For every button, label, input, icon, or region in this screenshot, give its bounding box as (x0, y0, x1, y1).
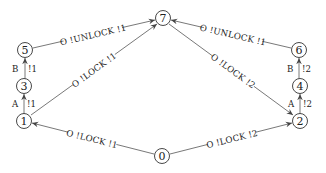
edge-0-to-2: O !LOCK !2 (170, 123, 292, 154)
edge-label-right: !2 (303, 99, 312, 109)
edge-0-to-1: O !LOCK !1 (32, 123, 154, 154)
node-label: 5 (22, 44, 29, 57)
node-label: 1 (21, 115, 28, 128)
edge-label-left: B (287, 64, 293, 74)
edge-label: O !LOCK !2 (205, 128, 258, 150)
node-label: 2 (297, 115, 304, 128)
node-3: 3 (17, 79, 32, 94)
edge-label: O !UNLOCK !1 (59, 23, 127, 48)
edge-label: O !UNLOCK !1 (199, 23, 267, 48)
edge-label-right: !1 (28, 64, 37, 74)
node-label: 7 (160, 12, 167, 25)
edge-label-right: !2 (302, 64, 311, 74)
edge-label: O !LOCK !2 (209, 51, 257, 90)
edge-label-right: !1 (27, 99, 36, 109)
edge-label-left: A (11, 99, 19, 109)
diagram-canvas: O !UNLOCK !1 O !LOCK !1 O !UNLOCK !1 O !… (0, 0, 326, 173)
node-2: 2 (293, 114, 308, 129)
node-label: 6 (296, 44, 303, 57)
edge-3-to-5: B !1 (12, 58, 37, 79)
node-label: 3 (21, 80, 28, 93)
edge-label: O !LOCK !1 (65, 128, 118, 150)
node-label: 4 (297, 80, 304, 93)
edge-4-to-6: B !2 (287, 58, 311, 79)
node-6: 6 (292, 43, 307, 58)
state-diagram: O !UNLOCK !1 O !LOCK !1 O !UNLOCK !1 O !… (0, 0, 326, 173)
node-label: 0 (159, 150, 166, 163)
node-5: 5 (18, 43, 33, 58)
edge-label: O !LOCK !1 (70, 50, 118, 89)
edge-2-to-4: A !2 (287, 94, 312, 114)
edge-label-left: A (287, 99, 295, 109)
edge-5-to-7: O !UNLOCK !1 (33, 20, 155, 48)
node-4: 4 (293, 79, 308, 94)
edge-label-left: B (12, 64, 18, 74)
edge-6-to-7: O !UNLOCK !1 (171, 20, 291, 48)
node-7: 7 (156, 11, 171, 26)
edge-1-to-3: A !1 (11, 94, 36, 114)
node-0: 0 (155, 149, 170, 164)
node-1: 1 (17, 114, 32, 129)
